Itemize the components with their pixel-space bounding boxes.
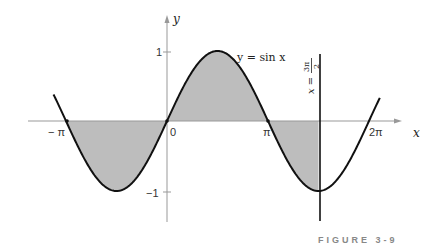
- y-axis-arrow-icon: [165, 15, 170, 23]
- point-pi: [266, 119, 270, 123]
- point-neg-pi: [65, 119, 69, 123]
- vline-label-num: 3π: [302, 62, 311, 72]
- y-axis-label: y: [172, 12, 180, 26]
- figure-caption: FIGURE 3-9: [318, 235, 398, 245]
- curve-label: y = sin x: [236, 51, 286, 64]
- point-origin: [165, 119, 169, 123]
- figure-canvas: y x 1 −1 − π 0 π 2π y = sin x x = 3π 2 F…: [0, 0, 442, 247]
- x-axis-label: x: [413, 126, 420, 140]
- x-tick-label-pi: π: [263, 126, 271, 138]
- vline-label-den: 2: [312, 64, 321, 69]
- vertical-line-label: x = 3π 2: [302, 58, 321, 94]
- vline-label-lhs: x =: [305, 77, 316, 94]
- x-axis-arrow-icon: [394, 119, 402, 124]
- x-tick-label-neg-pi: − π: [48, 126, 65, 138]
- y-tick-label-neg1: −1: [146, 187, 159, 199]
- x-tick-label-0: 0: [170, 126, 176, 138]
- x-tick-label-2pi: 2π: [369, 126, 383, 138]
- y-tick-label-1: 1: [156, 46, 162, 58]
